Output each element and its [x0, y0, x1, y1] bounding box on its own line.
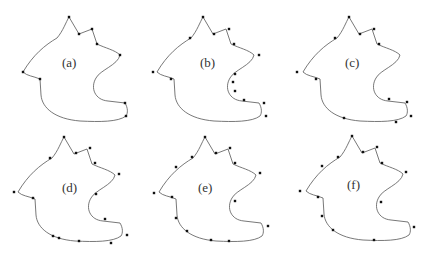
panel-label: (b): [200, 55, 215, 71]
control-point: [359, 33, 361, 35]
control-point: [49, 157, 51, 159]
control-point: [95, 193, 97, 195]
control-point: [96, 43, 98, 45]
panel-c: (c): [286, 0, 429, 128]
control-point: [373, 239, 375, 241]
control-point: [267, 225, 269, 227]
control-point: [171, 196, 173, 198]
control-point: [362, 151, 364, 153]
control-point: [234, 90, 236, 92]
control-point: [189, 37, 191, 39]
control-point: [233, 43, 235, 45]
control-point: [52, 235, 54, 237]
panel-label: (f): [347, 177, 360, 193]
control-point: [94, 162, 96, 164]
control-point: [229, 147, 231, 149]
panel-f: (f): [286, 127, 429, 255]
control-point: [381, 162, 383, 164]
control-point: [234, 162, 236, 164]
control-point: [373, 28, 375, 30]
control-point: [228, 240, 230, 242]
control-point: [395, 121, 397, 123]
control-point: [68, 16, 70, 18]
control-point: [234, 73, 236, 75]
control-point: [202, 16, 204, 18]
control-point: [265, 115, 267, 117]
control-point: [405, 171, 407, 173]
control-point: [376, 146, 378, 148]
control-point: [152, 71, 154, 73]
control-point: [410, 115, 412, 117]
control-point: [78, 240, 80, 242]
control-point: [186, 230, 188, 232]
control-point: [78, 33, 80, 35]
control-point: [89, 147, 91, 149]
control-point: [124, 102, 126, 104]
control-point: [234, 200, 236, 202]
control-point: [243, 99, 245, 101]
control-point: [125, 115, 127, 117]
control-point: [39, 78, 41, 80]
panel-e: (e): [143, 127, 286, 255]
control-point: [210, 239, 212, 241]
control-point: [388, 98, 390, 100]
panel-label: (a): [62, 55, 76, 71]
panel-d: (d): [0, 127, 143, 255]
control-point: [22, 71, 24, 73]
control-point: [191, 156, 193, 158]
control-point: [258, 54, 260, 56]
control-point: [334, 37, 336, 39]
panel-a: (a): [0, 0, 143, 128]
control-point: [126, 234, 128, 236]
control-point: [232, 81, 234, 83]
control-point: [153, 192, 155, 194]
shape-outline: [143, 127, 286, 255]
control-point: [215, 152, 217, 154]
control-point: [58, 237, 60, 239]
control-point: [213, 33, 215, 35]
control-point: [118, 173, 120, 175]
control-point: [110, 242, 112, 244]
control-point: [119, 54, 121, 56]
control-point: [170, 78, 172, 80]
control-point: [259, 172, 261, 174]
control-point: [13, 191, 15, 193]
control-point: [63, 136, 65, 138]
control-point: [337, 156, 339, 158]
control-point: [406, 101, 408, 103]
control-point: [378, 43, 380, 45]
control-point: [296, 71, 298, 73]
control-point: [228, 28, 230, 30]
control-point: [175, 166, 177, 168]
control-point: [175, 217, 177, 219]
panel-label: (d): [62, 180, 77, 196]
panel-b: (b): [143, 0, 286, 128]
control-point: [413, 226, 415, 228]
control-point: [348, 16, 350, 18]
control-point: [380, 201, 382, 203]
control-point: [332, 229, 334, 231]
control-point: [299, 190, 301, 192]
control-point: [317, 196, 319, 198]
control-point: [321, 215, 323, 217]
control-point: [321, 165, 323, 167]
panel-label: (c): [345, 55, 359, 71]
control-point: [91, 28, 93, 30]
control-point: [351, 135, 353, 137]
control-point: [204, 136, 206, 138]
control-point: [104, 218, 106, 220]
panel-label: (e): [198, 180, 212, 196]
control-point: [32, 197, 34, 199]
control-point: [75, 152, 77, 154]
control-point: [315, 78, 317, 80]
control-point: [343, 117, 345, 119]
control-point: [263, 102, 265, 104]
